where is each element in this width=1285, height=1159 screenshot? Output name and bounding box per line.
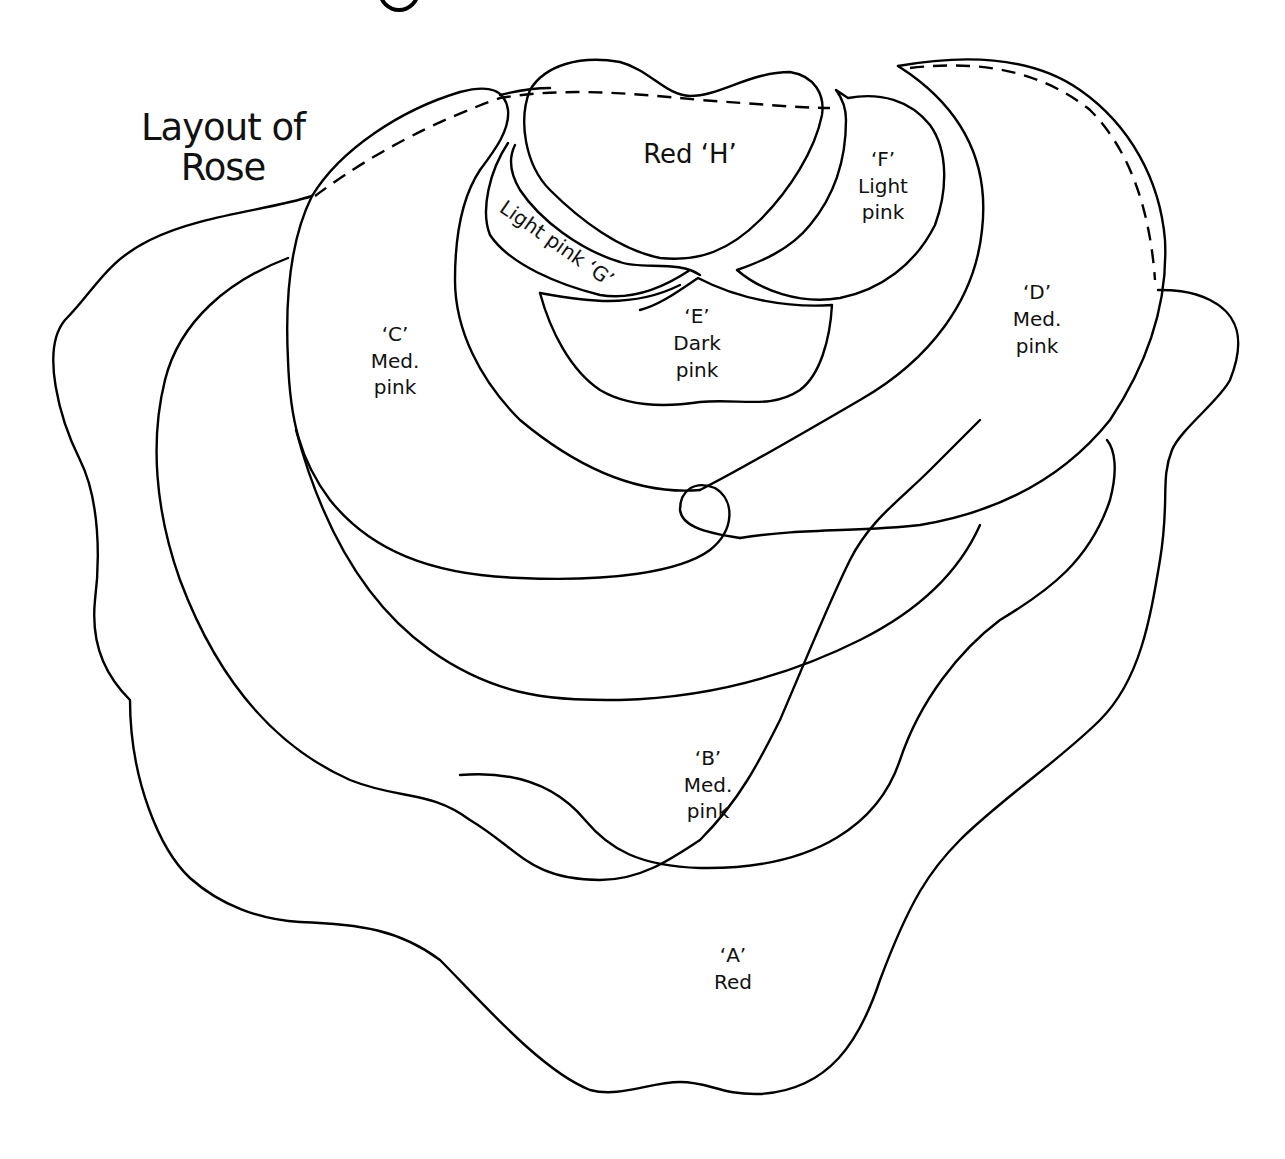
petal-c-outline <box>287 196 740 579</box>
svg-text:pink: pink <box>862 200 905 224</box>
label-petal-h: Red ‘H’ <box>643 139 737 169</box>
svg-text:Light: Light <box>858 174 908 198</box>
svg-text:‘E’: ‘E’ <box>684 304 709 328</box>
label-petal-g: Light pink ‘G’ <box>496 195 619 291</box>
svg-text:‘C’: ‘C’ <box>382 322 409 346</box>
petal-d-inner-edge <box>700 66 983 490</box>
label-petal-f: ‘F’ Light pink <box>858 147 908 224</box>
petal-b-outline <box>157 258 980 880</box>
svg-text:‘A’: ‘A’ <box>720 943 746 967</box>
svg-text:pink: pink <box>676 358 719 382</box>
petal-d-dashed-edge <box>910 65 1155 280</box>
label-petal-a: ‘A’ Red <box>714 943 752 994</box>
svg-text:Med.: Med. <box>684 773 733 797</box>
svg-text:Red ‘H’: Red ‘H’ <box>643 139 737 169</box>
svg-text:pink: pink <box>687 799 730 823</box>
svg-text:‘B’: ‘B’ <box>695 746 721 770</box>
svg-text:Med.: Med. <box>371 349 420 373</box>
top-dashed-edge <box>315 92 830 196</box>
label-petal-b: ‘B’ Med. pink <box>684 746 733 823</box>
svg-text:Med.: Med. <box>1013 307 1062 331</box>
petal-c-lower-curve <box>296 430 980 700</box>
label-petal-c: ‘C’ Med. pink <box>371 322 420 399</box>
svg-text:pink: pink <box>1016 334 1059 358</box>
petal-f-outline <box>737 90 944 300</box>
petal-b-right-edge <box>460 440 1115 868</box>
svg-text:Dark: Dark <box>673 331 721 355</box>
label-petal-d: ‘D’ Med. pink <box>1013 280 1062 358</box>
svg-text:‘D’: ‘D’ <box>1023 280 1051 304</box>
petal-c-top-lobe <box>312 89 700 491</box>
svg-text:pink: pink <box>374 375 417 399</box>
svg-text:Red: Red <box>714 970 752 994</box>
svg-text:Light pink ‘G’: Light pink ‘G’ <box>496 195 619 291</box>
svg-text:‘F’: ‘F’ <box>871 147 895 171</box>
rose-layout-diagram: Red ‘H’ ‘F’ Light pink Light pink ‘G’ ‘E… <box>0 0 1285 1159</box>
label-petal-e: ‘E’ Dark pink <box>673 304 721 382</box>
